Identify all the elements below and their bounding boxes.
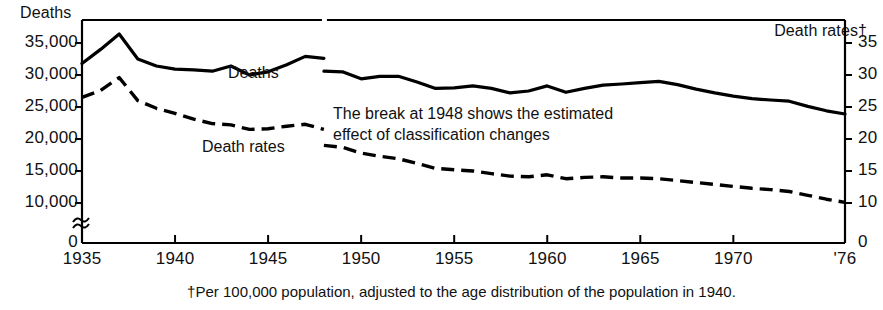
right-tick-label: 30: [858, 64, 877, 84]
left-tick-label: 35,000: [0, 32, 78, 52]
right-tick-label: 15: [858, 160, 877, 180]
left-tick-label: 30,000: [0, 64, 78, 84]
x-tick-label: 1935: [47, 249, 117, 269]
x-tick-label: 1940: [140, 249, 210, 269]
series-label-death-rates: Death rates: [202, 138, 285, 156]
x-tick-label: 1945: [233, 249, 303, 269]
series-label-deaths: Deaths: [228, 64, 279, 82]
x-tick-label: 1965: [605, 249, 675, 269]
footnote-text: †Per 100,000 population, adjusted to the…: [147, 283, 736, 300]
left-tick-label: 15,000: [0, 160, 78, 180]
left-tick-label: 10,000: [0, 192, 78, 212]
right-tick-label: 25: [858, 96, 877, 116]
right-tick-label: 10: [858, 192, 877, 212]
annotation-line: effect of classification changes: [333, 124, 613, 145]
death-rate-chart-figure: Deaths Death rates† 010,00015,00020,0002…: [0, 0, 883, 310]
x-tick-label: 1955: [419, 249, 489, 269]
x-tick-label: '76: [810, 249, 880, 269]
annotation-line: The break at 1948 shows the estimated: [333, 103, 613, 124]
left-tick-label: 20,000: [0, 128, 78, 148]
x-tick-label: 1950: [326, 249, 396, 269]
x-tick-label: 1970: [698, 249, 768, 269]
right-tick-label: 35: [858, 32, 877, 52]
break-annotation: The break at 1948 shows the estimatedeff…: [333, 103, 613, 145]
left-tick-label: 25,000: [0, 96, 78, 116]
chart-footnote: †Per 100,000 population, adjusted to the…: [0, 283, 883, 300]
right-tick-label: 20: [858, 128, 877, 148]
x-tick-label: 1960: [512, 249, 582, 269]
